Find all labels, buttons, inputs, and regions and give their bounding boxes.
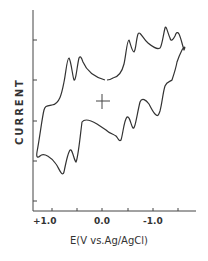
voltammogram-curve <box>37 27 185 174</box>
x-axis-label: E(V vs.Ag/AgCl) <box>70 235 148 246</box>
y-axis-label: CURRENT <box>14 78 25 145</box>
origin-marker <box>96 94 110 109</box>
cyclic-voltammogram-chart: +1.0 0.0 -1.0 E(V vs.Ag/AgCl) CURRENT <box>0 0 208 261</box>
x-tick-label-0: 0.0 <box>94 216 110 226</box>
x-tick-label-minus-1: -1.0 <box>143 216 163 226</box>
x-tick-label-plus-1: +1.0 <box>33 216 56 226</box>
y-ticks <box>33 40 37 201</box>
